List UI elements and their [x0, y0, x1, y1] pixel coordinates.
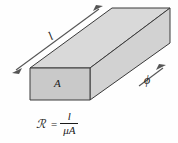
equals-sign: =: [51, 118, 57, 130]
prism-drawing: [0, 0, 178, 143]
fraction: l μA: [60, 111, 78, 136]
area-label: A: [54, 78, 61, 89]
reluctance-formula: ℛ = l μA: [36, 111, 78, 136]
fraction-denominator: μA: [60, 124, 78, 137]
fraction-numerator: l: [65, 111, 74, 123]
flux-label: ϕ: [144, 74, 150, 86]
reluctance-figure: l A ϕ ℛ = l μA: [0, 0, 178, 143]
reluctance-symbol: ℛ: [36, 117, 46, 131]
